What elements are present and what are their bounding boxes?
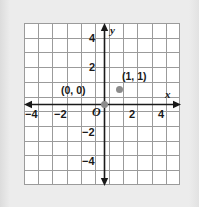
y-axis-label: y [110,24,115,36]
y-axis-arrow-top [101,23,108,31]
y-tick-label-pos4: 4 [89,32,95,44]
x-axis-arrow-right [173,101,181,108]
y-tick-label-neg2: −2 [82,126,95,138]
y-tick-label-pos2: 2 [89,61,95,73]
x-axis-label: x [165,88,171,100]
data-point-one-one [116,86,123,93]
data-point-one-one-label: (1, 1) [122,70,147,82]
x-tick-label-neg4: −4 [25,108,38,120]
y-tick-label-neg4: −4 [82,155,95,167]
axes-overlay [0,0,199,207]
x-tick-label-neg2: −2 [54,108,67,120]
data-point-origin-label: (0, 0) [61,84,86,96]
origin-letter-label: O [92,105,101,120]
y-axis-arrow-bottom [101,178,108,186]
x-tick-label-pos2: 2 [129,108,135,120]
coordinate-plane-figure: y x −4 −2 2 4 4 2 −2 −4 O (0, 0) (1, 1) [0,0,199,207]
data-point-origin [101,101,108,108]
x-tick-label-pos4: 4 [158,108,164,120]
